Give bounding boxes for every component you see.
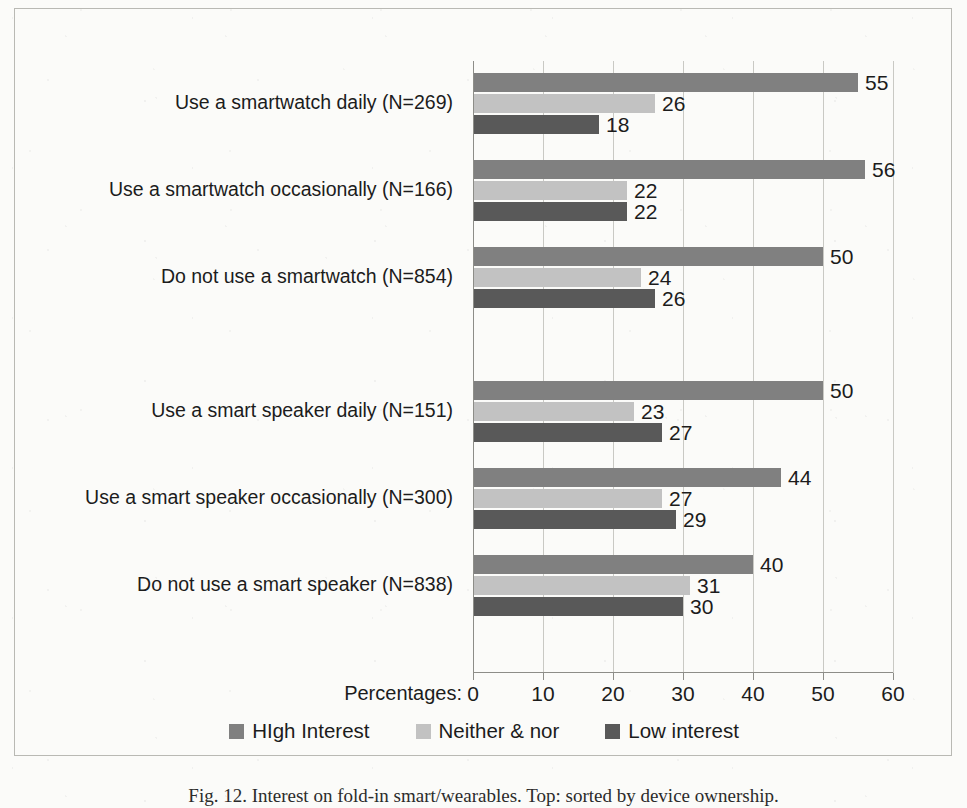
bar-row: 23 — [473, 402, 664, 421]
category-label: Do not use a smart speaker (N=838) — [137, 574, 463, 595]
bar-row: 31 — [473, 576, 720, 595]
legend-swatch-icon — [605, 724, 620, 739]
bar-value-label: 27 — [669, 422, 692, 443]
bar-row: 30 — [473, 597, 713, 616]
bar-value-label: 29 — [683, 509, 706, 530]
chart-figure-frame: Use a smartwatch daily (N=269)Use a smar… — [14, 8, 952, 756]
bar-row: 55 — [473, 73, 888, 92]
x-tick-label: 10 — [531, 683, 554, 704]
legend-label: HIgh Interest — [252, 721, 369, 742]
bar — [473, 202, 627, 221]
bar-row: 27 — [473, 423, 692, 442]
bar-value-label: 30 — [690, 596, 713, 617]
bar-row: 26 — [473, 289, 685, 308]
bar-row: 22 — [473, 181, 657, 200]
bar-row: 26 — [473, 94, 685, 113]
legend-swatch-icon — [416, 724, 431, 739]
figure-caption: Fig. 12. Interest on fold-in smart/weara… — [0, 784, 967, 808]
bar — [473, 268, 641, 287]
bar — [473, 289, 655, 308]
bar-value-label: 23 — [641, 401, 664, 422]
bar — [473, 94, 655, 113]
bar-value-label: 27 — [669, 488, 692, 509]
x-tick-label: 40 — [741, 683, 764, 704]
bar — [473, 468, 781, 487]
tick-mark-50 — [823, 673, 824, 680]
bar-value-label: 56 — [872, 159, 895, 180]
bar — [473, 555, 753, 574]
bar-group: 502327 — [473, 381, 893, 442]
category-label: Use a smart speaker daily (N=151) — [151, 400, 463, 421]
gridline-60 — [893, 61, 894, 673]
bar — [473, 576, 690, 595]
bar-group: 562222 — [473, 160, 893, 221]
bar-group: 552618 — [473, 73, 893, 134]
bar-value-label: 40 — [760, 554, 783, 575]
tick-mark-40 — [753, 673, 754, 680]
x-tick-label: 0 — [467, 683, 479, 704]
bar — [473, 381, 823, 400]
tick-mark-30 — [683, 673, 684, 680]
chart-legend: HIgh InterestNeither & norLow interest — [15, 721, 953, 742]
bar-value-label: 24 — [648, 267, 671, 288]
bar-value-label: 55 — [865, 72, 888, 93]
x-axis-title: Percentages: — [344, 683, 462, 703]
category-label: Do not use a smartwatch (N=854) — [161, 266, 463, 287]
bar — [473, 247, 823, 266]
legend-swatch-icon — [229, 724, 244, 739]
x-axis: Percentages: 0102030405060 — [15, 673, 953, 713]
category-label: Use a smartwatch occasionally (N=166) — [109, 179, 463, 200]
x-tick-label: 30 — [671, 683, 694, 704]
x-tick-label: 20 — [601, 683, 624, 704]
bar — [473, 402, 634, 421]
bar-row: 44 — [473, 468, 811, 487]
bar-row: 50 — [473, 381, 853, 400]
bar-value-label: 26 — [662, 93, 685, 114]
bar-row: 22 — [473, 202, 657, 221]
bar-value-label: 50 — [830, 380, 853, 401]
x-tick-label: 60 — [881, 683, 904, 704]
bar-row: 24 — [473, 268, 671, 287]
bar — [473, 510, 676, 529]
bar-value-label: 18 — [606, 114, 629, 135]
tick-mark-20 — [613, 673, 614, 680]
bar-value-label: 50 — [830, 246, 853, 267]
x-axis-prefix-wrapper: Percentages: — [15, 673, 462, 703]
bar-value-label: 44 — [788, 467, 811, 488]
bar-value-label: 22 — [634, 201, 657, 222]
bar-group: 442729 — [473, 468, 893, 529]
x-tick-label: 50 — [811, 683, 834, 704]
tick-mark-60 — [893, 673, 894, 680]
category-label-column: Use a smartwatch daily (N=269)Use a smar… — [15, 61, 463, 673]
bar — [473, 597, 683, 616]
legend-item: HIgh Interest — [229, 721, 369, 742]
bar-row: 29 — [473, 510, 706, 529]
bar — [473, 423, 662, 442]
legend-item: Neither & nor — [416, 721, 560, 742]
bar — [473, 160, 865, 179]
legend-label: Low interest — [628, 721, 739, 742]
category-label: Use a smartwatch daily (N=269) — [175, 92, 463, 113]
bar-group: 502426 — [473, 247, 893, 308]
bar — [473, 73, 858, 92]
bar — [473, 489, 662, 508]
bar-row: 56 — [473, 160, 895, 179]
bar-group: 403130 — [473, 555, 893, 616]
bar-row: 27 — [473, 489, 692, 508]
bar-row: 18 — [473, 115, 629, 134]
bar-row: 50 — [473, 247, 853, 266]
bar-row: 40 — [473, 555, 783, 574]
bar — [473, 181, 627, 200]
tick-mark-10 — [543, 673, 544, 680]
bar-value-label: 22 — [634, 180, 657, 201]
bar-value-label: 31 — [697, 575, 720, 596]
category-label: Use a smart speaker occasionally (N=300) — [85, 487, 463, 508]
bar — [473, 115, 599, 134]
legend-item: Low interest — [605, 721, 739, 742]
bar-value-label: 26 — [662, 288, 685, 309]
plot-area: 552618562222502426502327442729403130 — [473, 61, 893, 673]
legend-label: Neither & nor — [439, 721, 560, 742]
tick-mark-0 — [473, 673, 474, 680]
